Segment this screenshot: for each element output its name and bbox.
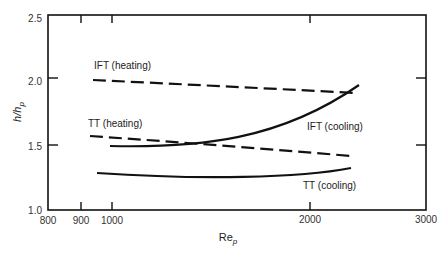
y-tick-2.0: 2.0 — [28, 76, 42, 87]
y-axis-label: h/hp — [11, 102, 26, 122]
x-tick-800: 800 — [40, 215, 57, 226]
y-tick-2.5: 2.5 — [28, 13, 42, 24]
label-ift-cooling: IFT (cooling) — [307, 121, 363, 132]
plot-frame — [48, 15, 426, 210]
label-ift-heating: IFT (heating) — [94, 60, 151, 71]
y-tick-1.5: 1.5 — [28, 141, 42, 152]
x-tick-3000: 3000 — [415, 214, 438, 225]
series-ift-heating — [93, 80, 357, 93]
series-tt-cooling — [97, 168, 351, 177]
x-tick-900: 900 — [73, 215, 90, 226]
x-axis-label: Rep — [219, 231, 238, 246]
chart: 800 900 1000 2000 3000 2.5 2.0 1.5 1.0 R… — [0, 0, 445, 256]
x-tick-1000: 1000 — [101, 215, 124, 226]
y-tick-1.0: 1.0 — [28, 205, 42, 216]
series-ift-cooling — [110, 85, 359, 146]
x-ticks — [81, 15, 310, 210]
x-tick-2000: 2000 — [299, 214, 322, 225]
label-tt-heating: TT (heating) — [88, 118, 142, 129]
label-tt-cooling: TT (cooling) — [303, 180, 356, 191]
